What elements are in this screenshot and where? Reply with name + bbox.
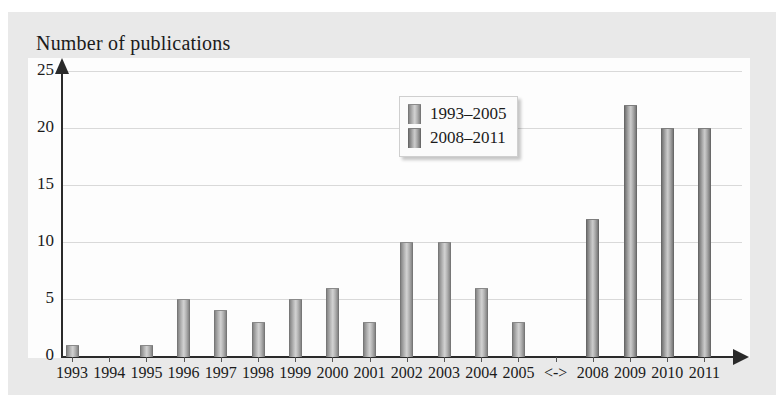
x-tick-2005 xyxy=(518,357,519,362)
x-tick-2004 xyxy=(481,357,482,362)
bar-2008 xyxy=(586,219,599,357)
x-tick-label-1995: 1995 xyxy=(130,364,162,382)
x-tick-1997 xyxy=(221,357,222,362)
bar-2001 xyxy=(363,322,376,357)
y-tick-label-20: 20 xyxy=(20,117,54,137)
y-axis-arrow-icon xyxy=(55,58,69,74)
y-tick-label-25: 25 xyxy=(20,60,54,80)
x-tick-label-2001: 2001 xyxy=(354,364,386,382)
y-tick-label-15: 15 xyxy=(20,174,54,194)
bar-2009 xyxy=(624,105,637,357)
x-tick-2002 xyxy=(407,357,408,362)
x-tick-1999 xyxy=(295,357,296,362)
legend-entry-late: 2008–2011 xyxy=(408,126,507,150)
x-tick-label-1999: 1999 xyxy=(279,364,311,382)
x-tick-2009 xyxy=(630,357,631,362)
bar-1995 xyxy=(140,345,153,357)
legend-entry-early: 1993–2005 xyxy=(408,102,507,126)
chart-legend: 1993–2005 2008–2011 xyxy=(399,96,518,157)
bar-2005 xyxy=(512,322,525,357)
x-tick-1993 xyxy=(72,357,73,362)
bar-2004 xyxy=(475,288,488,357)
bar-1998 xyxy=(252,322,265,357)
legend-swatch-icon-late xyxy=(408,128,421,148)
y-tick-label-10: 10 xyxy=(20,231,54,251)
x-tick-2003 xyxy=(444,357,445,362)
bar-1997 xyxy=(214,310,227,357)
x-tick-2001 xyxy=(370,357,371,362)
x-tick-label-2010: 2010 xyxy=(651,364,683,382)
legend-label-late: 2008–2011 xyxy=(430,128,506,148)
x-tick-2010 xyxy=(667,357,668,362)
x-tick-2011 xyxy=(704,357,705,362)
x-axis-arrow-icon xyxy=(733,349,749,365)
y-tick-label-0: 0 xyxy=(20,345,54,365)
bar-1993 xyxy=(66,345,79,357)
legend-label-early: 1993–2005 xyxy=(430,104,507,124)
x-tick-label-1993: 1993 xyxy=(56,364,88,382)
x-tick-label-2009: 2009 xyxy=(614,364,646,382)
plot-area xyxy=(28,58,750,358)
gridline-25 xyxy=(62,71,742,72)
bar-2010 xyxy=(661,128,674,357)
x-tick-1994 xyxy=(109,357,110,362)
x-tick-1996 xyxy=(184,357,185,362)
x-tick-1998 xyxy=(258,357,259,362)
x-tick-label-1996: 1996 xyxy=(168,364,200,382)
axis-break-marker: <-> xyxy=(544,364,567,382)
bar-2011 xyxy=(698,128,711,357)
y-tick-label-5: 5 xyxy=(20,288,54,308)
x-tick-label-2004: 2004 xyxy=(465,364,497,382)
legend-swatch-icon-early xyxy=(408,104,421,124)
x-tick-2008 xyxy=(593,357,594,362)
x-tick-<-> xyxy=(556,357,557,362)
chart-page: Number of publications 0510152025 199319… xyxy=(0,0,784,417)
bar-2002 xyxy=(400,242,413,357)
bar-1999 xyxy=(289,299,302,357)
x-tick-label-2005: 2005 xyxy=(502,364,534,382)
y-axis-line xyxy=(61,72,63,357)
x-tick-label-1997: 1997 xyxy=(205,364,237,382)
x-tick-1995 xyxy=(146,357,147,362)
chart-title: Number of publications xyxy=(36,32,230,55)
bar-2000 xyxy=(326,288,339,357)
bar-1996 xyxy=(177,299,190,357)
x-tick-label-2003: 2003 xyxy=(428,364,460,382)
x-tick-label-2002: 2002 xyxy=(391,364,423,382)
x-tick-2000 xyxy=(332,357,333,362)
bar-2003 xyxy=(438,242,451,357)
x-tick-label-1994: 1994 xyxy=(93,364,125,382)
x-tick-label-2000: 2000 xyxy=(316,364,348,382)
x-tick-label-2011: 2011 xyxy=(689,364,720,382)
x-tick-label-2008: 2008 xyxy=(577,364,609,382)
gridline-15 xyxy=(62,185,742,186)
x-tick-label-1998: 1998 xyxy=(242,364,274,382)
